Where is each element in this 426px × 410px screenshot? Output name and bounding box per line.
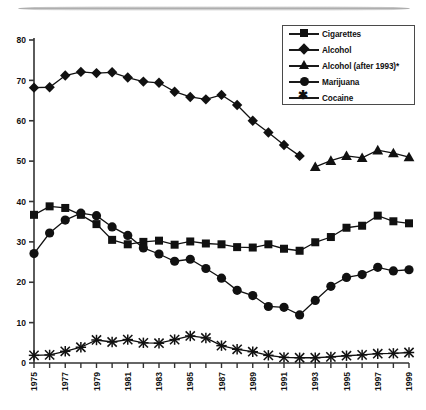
x-tick-label: 1987	[217, 372, 227, 391]
x-tick-label: 1991	[279, 372, 289, 391]
x-tick-label: 1993	[310, 372, 320, 391]
square-marker-icon	[155, 237, 163, 245]
x-marker-icon	[326, 352, 336, 362]
x-marker-icon	[310, 353, 320, 363]
circle-marker-icon	[279, 303, 288, 312]
circle-marker-icon	[264, 302, 273, 311]
x-tick-label: 1989	[248, 372, 258, 391]
square-marker-icon	[343, 224, 351, 232]
series-cigarettes	[30, 202, 413, 254]
circle-marker-icon	[373, 263, 382, 272]
x-marker-icon	[138, 338, 148, 348]
square-marker-icon	[296, 247, 304, 255]
triangle-marker-icon	[341, 150, 352, 160]
x-tick-label: 1997	[373, 372, 383, 391]
legend-label: Alcohol	[322, 46, 351, 55]
y-tick-label: 20	[17, 277, 27, 287]
triangle-marker-icon	[372, 145, 383, 155]
x-marker-icon	[388, 348, 398, 358]
x-marker-icon	[123, 334, 133, 344]
legend-item-cigarettes: Cigarettes	[289, 26, 414, 42]
x-tick-label: 1983	[154, 372, 164, 391]
circle-marker-icon	[170, 257, 179, 266]
x-tick-label: 1975	[29, 372, 39, 391]
square-marker-icon	[405, 219, 413, 227]
square-marker-icon	[61, 204, 69, 212]
x-marker-icon	[357, 350, 367, 360]
series-alcohol	[29, 67, 305, 161]
legend-label: Cocaine	[322, 94, 353, 103]
x-marker-icon	[201, 333, 211, 343]
square-marker-icon	[289, 27, 319, 41]
square-marker-icon	[46, 202, 54, 210]
y-tick-label: 0	[21, 358, 26, 368]
circle-marker-icon	[201, 264, 210, 273]
diamond-marker-icon	[60, 70, 70, 80]
y-tick-label: 10	[17, 318, 27, 328]
x-marker-icon	[107, 337, 117, 347]
x-marker-icon	[91, 335, 101, 345]
x-marker-icon	[169, 334, 179, 344]
y-tick-label: 70	[17, 76, 27, 86]
square-marker-icon	[108, 236, 116, 244]
x-marker-icon	[76, 342, 86, 352]
x-tick-label: 1979	[92, 372, 102, 391]
square-marker-icon	[171, 241, 179, 249]
x-marker-icon: ✱	[289, 91, 319, 105]
square-marker-icon	[218, 240, 226, 248]
circle-marker-icon	[389, 266, 398, 275]
x-tick-label: 1995	[342, 372, 352, 391]
circle-marker-icon	[29, 249, 38, 258]
series-alcohol-after-1993	[310, 145, 415, 171]
series-marijuana	[29, 209, 413, 320]
chart-figure: 0102030405060708019751977197919811983198…	[0, 0, 426, 410]
series-line	[34, 213, 409, 315]
x-marker-icon	[263, 350, 273, 360]
circle-marker-icon	[295, 310, 304, 319]
y-tick-label: 30	[17, 237, 27, 247]
square-marker-icon	[374, 212, 382, 220]
diamond-marker-icon	[185, 92, 195, 102]
diamond-marker-icon	[201, 94, 211, 104]
square-marker-icon	[264, 240, 272, 248]
x-marker-icon	[216, 340, 226, 350]
square-marker-icon	[233, 243, 241, 251]
circle-marker-icon	[342, 273, 351, 282]
x-tick-label: 1999	[404, 372, 414, 391]
diamond-marker-icon	[294, 151, 304, 161]
circle-marker-icon	[217, 274, 226, 283]
diamond-marker-icon	[154, 78, 164, 88]
chart-legend: Cigarettes Alcohol Alcohol (after 1993)*…	[282, 25, 415, 105]
x-marker-icon	[29, 350, 39, 360]
legend-label: Alcohol (after 1993)*	[322, 62, 399, 71]
y-tick-label: 60	[17, 116, 27, 126]
circle-marker-icon	[233, 286, 242, 295]
legend-label: Marijuana	[322, 78, 359, 87]
square-marker-icon	[327, 233, 335, 241]
diamond-marker-icon	[44, 82, 54, 92]
circle-marker-icon	[358, 270, 367, 279]
circle-marker-icon	[248, 291, 257, 300]
diamond-marker-icon	[91, 68, 101, 78]
legend-label: Cigarettes	[322, 30, 361, 39]
triangle-marker-icon	[310, 161, 321, 171]
circle-marker-icon	[154, 249, 163, 258]
diamond-marker-icon	[138, 76, 148, 86]
circle-marker-icon	[108, 222, 117, 231]
triangle-marker-icon	[289, 59, 319, 73]
circle-marker-icon	[311, 296, 320, 305]
x-marker-icon	[185, 331, 195, 341]
circle-marker-icon	[123, 231, 132, 240]
circle-marker-icon	[61, 215, 70, 224]
diamond-marker-icon	[169, 86, 179, 96]
circle-marker-icon	[404, 265, 413, 274]
square-marker-icon	[30, 211, 38, 219]
x-marker-icon	[279, 352, 289, 362]
series-cocaine	[29, 331, 414, 363]
diamond-marker-icon	[107, 67, 117, 77]
square-marker-icon	[93, 220, 101, 228]
y-tick-label: 50	[17, 156, 27, 166]
diamond-marker-icon	[123, 72, 133, 82]
circle-marker-icon	[45, 228, 54, 237]
diamond-marker-icon	[29, 82, 39, 92]
